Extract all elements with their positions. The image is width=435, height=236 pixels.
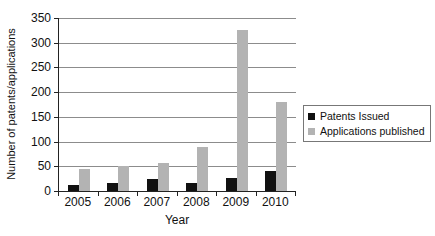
y-tick-label: 50	[0, 159, 51, 173]
y-tick-label: 350	[0, 11, 51, 25]
y-tick-label: 0	[0, 184, 51, 198]
y-axis-title: Number of patents/applications	[5, 28, 17, 180]
bar-applications-published-2008	[197, 147, 208, 191]
bar-applications-published-2010	[276, 102, 287, 191]
gridline-300	[59, 43, 296, 44]
bar-patents-issued-2005	[68, 185, 79, 191]
y-tick-mark	[54, 142, 58, 143]
gridline-100	[59, 142, 296, 143]
y-tick-label: 250	[0, 60, 51, 74]
y-tick-label: 200	[0, 85, 51, 99]
x-tick-label: 2008	[176, 196, 216, 209]
bar-applications-published-2007	[158, 163, 169, 191]
bar-patents-issued-2007	[147, 179, 158, 191]
gridline-250	[59, 67, 296, 68]
plot-area	[58, 18, 296, 192]
y-tick-mark	[54, 18, 58, 19]
patents-issued-label: Patents Issued	[320, 110, 389, 122]
gridline-150	[59, 117, 296, 118]
y-tick-mark	[54, 43, 58, 44]
x-tick-label: 2007	[137, 196, 177, 209]
y-tick-mark	[54, 117, 58, 118]
y-tick-label: 300	[0, 36, 51, 50]
x-tick-label: 2009	[216, 196, 256, 209]
legend: Patents Issued Applications published	[303, 105, 431, 142]
gridline-50	[59, 166, 296, 167]
applications-published-swatch	[308, 128, 315, 135]
bar-applications-published-2006	[118, 166, 129, 191]
bar-patents-issued-2010	[265, 171, 276, 191]
x-axis-title: Year	[165, 213, 189, 227]
bar-applications-published-2005	[79, 169, 90, 191]
y-tick-label: 100	[0, 135, 51, 149]
bar-patents-issued-2008	[186, 183, 197, 191]
gridline-200	[59, 92, 296, 93]
applications-published-label: Applications published	[320, 125, 425, 137]
y-tick-mark	[54, 67, 58, 68]
bar-applications-published-2009	[237, 30, 248, 191]
y-tick-mark	[54, 92, 58, 93]
patents-issued-swatch	[308, 113, 315, 120]
legend-item-applications-published: Applications published	[308, 125, 428, 137]
gridline-350	[59, 18, 296, 19]
x-tick-label: 2006	[97, 196, 137, 209]
bar-chart: Number of patents/applications Year Pate…	[0, 0, 435, 236]
y-tick-label: 150	[0, 110, 51, 124]
x-tick-label: 2010	[255, 196, 295, 209]
legend-item-patents-issued: Patents Issued	[308, 110, 428, 122]
bar-patents-issued-2006	[107, 183, 118, 191]
y-tick-mark	[54, 166, 58, 167]
x-tick-label: 2005	[58, 196, 98, 209]
bar-patents-issued-2009	[226, 178, 237, 191]
